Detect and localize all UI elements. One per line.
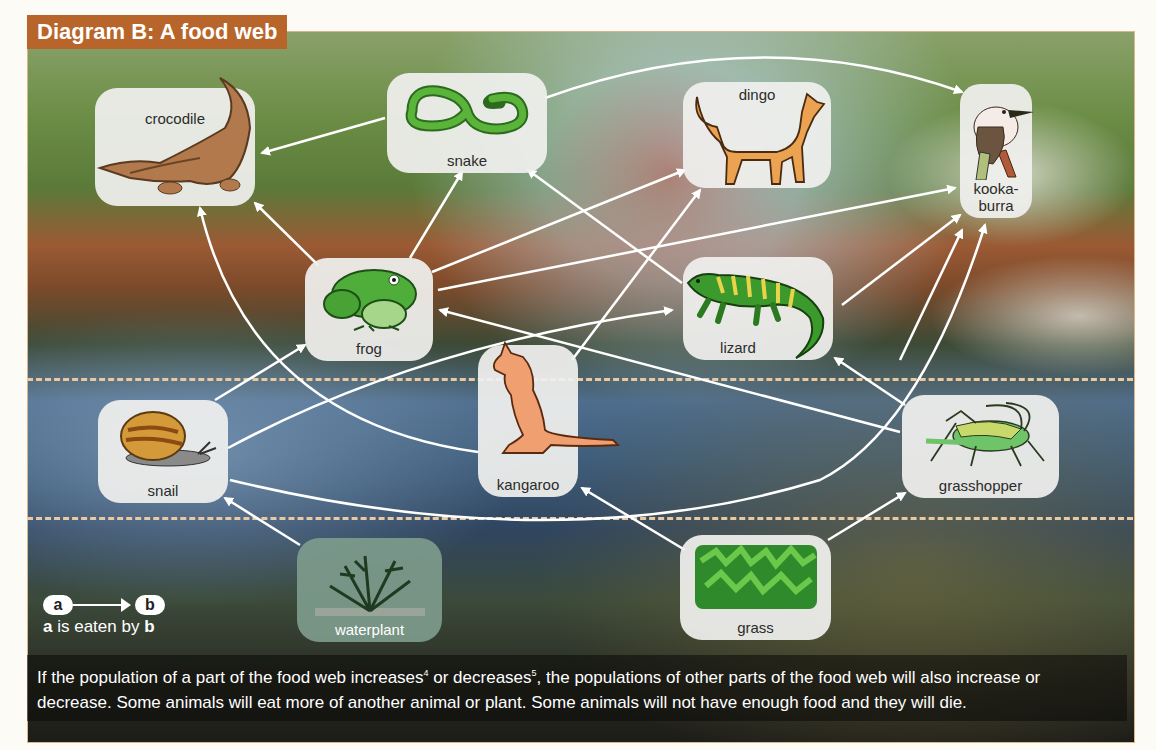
snail-icon: [108, 406, 218, 472]
legend-node-a: a: [43, 595, 73, 615]
arrow-grass-to-grasshopper: [828, 493, 905, 540]
node-label-snail: snail: [148, 482, 179, 499]
node-label-snake: snake: [447, 152, 487, 169]
snake-icon: [392, 81, 542, 141]
node-kookaburra[interactable]: kooka- burra: [960, 84, 1032, 218]
node-label-waterplant: waterplant: [335, 621, 404, 638]
node-label-kangaroo: kangaroo: [497, 476, 560, 493]
arrow-waterplant-to-snail: [225, 498, 300, 545]
explanation-part1: If the population of a part of the food …: [37, 668, 424, 687]
node-frog[interactable]: frog: [305, 258, 433, 361]
legend-caption-mid: is eaten by: [52, 617, 144, 636]
node-kangaroo[interactable]: kangaroo: [478, 345, 578, 497]
arrow-frog-to-crocodile: [255, 203, 318, 265]
explanation-part2: or decreases: [429, 668, 532, 687]
node-grass[interactable]: grass: [680, 535, 831, 640]
node-label-kookaburra-line1: kooka-: [973, 180, 1018, 197]
legend-diagram: ab: [43, 595, 165, 615]
legend-arrow-icon: [73, 604, 129, 606]
node-snail[interactable]: snail: [98, 400, 228, 503]
node-label-grasshopper: grasshopper: [939, 477, 1022, 494]
node-grasshopper[interactable]: grasshopper: [902, 395, 1059, 498]
arrow-snake-to-crocodile: [262, 118, 385, 153]
legend-caption: a is eaten by b: [43, 617, 165, 637]
node-crocodile[interactable]: crocodile: [95, 88, 255, 206]
node-label-frog: frog: [356, 340, 382, 357]
legend-node-b: b: [135, 595, 165, 615]
kangaroo-icon: [473, 335, 623, 475]
node-waterplant[interactable]: waterplant: [297, 538, 442, 642]
diagram-title: Diagram B: A food web: [27, 15, 287, 49]
arrow-lizard-to-kookaburra: [842, 215, 960, 305]
node-snake[interactable]: snake: [387, 73, 547, 173]
arrow-frog-to-snake: [410, 172, 462, 258]
grasshopper-icon: [916, 401, 1046, 471]
waterplant-icon: [315, 546, 425, 616]
node-label-grass: grass: [737, 619, 774, 636]
legend-caption-b: b: [144, 617, 154, 636]
dingo-icon: [682, 72, 832, 192]
node-lizard[interactable]: lizard: [683, 257, 833, 360]
grass-icon: [691, 541, 821, 613]
arrow-grasshopper-to-lizard: [835, 358, 905, 405]
explanation-text: If the population of a part of the food …: [27, 655, 1127, 721]
legend: ab a is eaten by b: [43, 595, 165, 637]
arrow-grasshopper-to-kookaburra: [900, 230, 962, 360]
frog-icon: [314, 264, 424, 334]
node-label-kookaburra-line2: burra: [978, 197, 1013, 214]
arrow-lizard-to-snake: [528, 170, 682, 283]
node-dingo[interactable]: dingo: [683, 82, 831, 188]
kookaburra-icon: [958, 92, 1034, 180]
lizard-icon: [678, 263, 838, 363]
crocodile-icon: [90, 73, 260, 203]
